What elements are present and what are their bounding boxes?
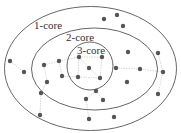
node-n28 <box>112 115 116 119</box>
edge <box>116 68 140 69</box>
edge <box>40 93 41 115</box>
edge <box>10 61 24 72</box>
node-n21 <box>156 92 160 96</box>
node-n9 <box>8 59 12 63</box>
node-n27 <box>87 117 91 121</box>
node-n20 <box>161 70 165 74</box>
node-n2 <box>115 13 119 17</box>
labels-layer: 1-core2-core3-core <box>34 19 105 56</box>
edge <box>100 57 102 78</box>
edge <box>59 61 62 76</box>
edge <box>86 99 89 119</box>
node-n18 <box>125 80 129 84</box>
edge <box>44 61 59 65</box>
edge <box>79 57 89 68</box>
ring-label-core1: 1-core <box>34 19 62 31</box>
node-n15 <box>114 66 118 70</box>
ring-label-core3: 3-core <box>77 44 105 56</box>
edge <box>78 77 100 78</box>
node-n17 <box>138 67 142 71</box>
edge <box>44 65 47 82</box>
node-n10 <box>22 70 26 74</box>
node-n16 <box>126 50 130 54</box>
node-n23 <box>84 97 88 101</box>
node-n19 <box>156 51 160 55</box>
ring-label-core2: 2-core <box>66 31 94 43</box>
edge <box>158 72 163 94</box>
node-n26 <box>38 113 42 117</box>
node-n24 <box>101 98 105 102</box>
k-core-diagram: 1-core2-core3-core <box>0 0 181 133</box>
node-n8 <box>98 76 102 80</box>
node-n1 <box>102 17 106 21</box>
edge <box>158 53 163 72</box>
edges-layer <box>10 53 163 119</box>
node-n7 <box>76 75 80 79</box>
node-n22 <box>94 89 98 93</box>
node-n6 <box>87 66 91 70</box>
edge <box>59 57 79 61</box>
node-n13 <box>60 74 64 78</box>
node-n3 <box>121 24 125 28</box>
edge <box>62 76 78 77</box>
edge <box>78 57 79 77</box>
edge <box>89 68 100 78</box>
node-n25 <box>39 91 43 95</box>
edge <box>140 69 163 72</box>
node-n14 <box>45 80 49 84</box>
node-n11 <box>42 63 46 67</box>
node-n12 <box>57 59 61 63</box>
